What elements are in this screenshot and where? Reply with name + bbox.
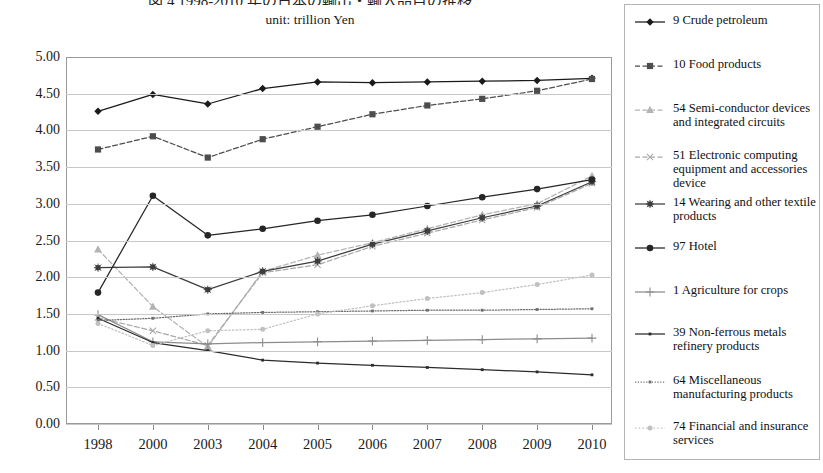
- x-tick-label: 2007: [413, 436, 442, 453]
- gridline: [66, 130, 612, 131]
- legend-item[interactable]: 97 Hotel: [631, 239, 817, 255]
- legend-item[interactable]: 39 Non-ferrous metals refinery products: [631, 325, 817, 353]
- series-line: [95, 180, 595, 348]
- series-line: [96, 272, 595, 347]
- gridline: [66, 277, 612, 278]
- legend-item[interactable]: 74 Financial and insurance services: [631, 419, 817, 447]
- chart-legend: 9 Crude petroleum10 Food products54 Semi…: [624, 4, 820, 460]
- legend-item-label: 54 Semi-conductor devices and integrated…: [671, 101, 817, 129]
- x-tick-label: 2009: [523, 436, 552, 453]
- gridline: [66, 314, 612, 315]
- y-tick-label: 0.00: [0, 416, 60, 432]
- gridline: [66, 204, 612, 205]
- legend-key-icon: [631, 375, 671, 389]
- legend-item-label: 10 Food products: [671, 57, 761, 71]
- x-tick-label: 2006: [358, 436, 387, 453]
- x-tick: [592, 425, 593, 430]
- series-line: [94, 310, 597, 348]
- legend-item-label: 9 Crude petroleum: [671, 13, 767, 27]
- legend-item-label: 39 Non-ferrous metals refinery products: [671, 325, 817, 353]
- gridline: [66, 94, 612, 95]
- chart-page: 図 4 1998-2010 年の日本の輸出・輸入品目の推移 unit: tril…: [0, 0, 823, 473]
- y-tick-label: 3.50: [0, 159, 60, 175]
- series-line: [94, 172, 596, 350]
- series-line: [97, 317, 594, 376]
- series-line: [95, 76, 595, 161]
- y-tick-label: 1.50: [0, 306, 60, 322]
- gridline: [66, 241, 612, 242]
- legend-key-icon: [631, 59, 671, 73]
- legend-item[interactable]: 10 Food products: [631, 57, 817, 73]
- x-tick-label: 1998: [84, 436, 113, 453]
- legend-item[interactable]: 14 Wearing and other textile products: [631, 195, 817, 223]
- y-tick-label: 4.00: [0, 122, 60, 138]
- legend-item[interactable]: 54 Semi-conductor devices and integrated…: [631, 101, 817, 129]
- x-tick: [153, 425, 154, 430]
- x-tick-label: 2010: [578, 436, 607, 453]
- legend-key-icon: [631, 197, 671, 211]
- legend-item-label: 74 Financial and insurance services: [671, 419, 817, 447]
- chart-subtitle: unit: trillion Yen: [0, 12, 620, 28]
- y-tick-label: 2.50: [0, 233, 60, 249]
- legend-key-icon: [631, 421, 671, 435]
- y-tick-label: 2.00: [0, 269, 60, 285]
- x-tick: [318, 425, 319, 430]
- x-tick: [482, 425, 483, 430]
- legend-item-label: 1 Agriculture for crops: [671, 283, 788, 297]
- gridline: [66, 424, 612, 425]
- x-tick: [537, 425, 538, 430]
- x-tick-label: 2005: [303, 436, 332, 453]
- x-axis: 1998200020032004200520062007200820092010: [66, 430, 612, 460]
- plot-area: [66, 57, 612, 424]
- y-tick-label: 0.50: [0, 379, 60, 395]
- gridline: [66, 387, 612, 388]
- legend-item-label: 14 Wearing and other textile products: [671, 195, 817, 223]
- y-tick-label: 1.00: [0, 343, 60, 359]
- y-tick-label: 4.50: [0, 86, 60, 102]
- legend-item[interactable]: 64 Miscellaneous manufacturing products: [631, 373, 817, 401]
- legend-key-icon: [631, 150, 671, 164]
- legend-key-icon: [631, 241, 671, 255]
- y-axis: 5.004.504.003.503.002.502.001.501.000.50…: [0, 57, 60, 424]
- x-tick: [427, 425, 428, 430]
- legend-item[interactable]: 51 Electronic computing equipment and ac…: [631, 148, 817, 191]
- chart-title: 図 4 1998-2010 年の日本の輸出・輸入品目の推移: [0, 0, 620, 5]
- legend-item-label: 51 Electronic computing equipment and ac…: [671, 148, 817, 191]
- y-tick-label: 3.00: [0, 196, 60, 212]
- legend-item-label: 97 Hotel: [671, 239, 717, 253]
- legend-key-icon: [631, 15, 671, 29]
- legend-key-icon: [631, 103, 671, 117]
- x-tick: [263, 425, 264, 430]
- legend-item[interactable]: 1 Agriculture for crops: [631, 283, 817, 299]
- y-tick-label: 5.00: [0, 49, 60, 65]
- gridline: [66, 167, 612, 168]
- gridline: [66, 351, 612, 352]
- x-tick-label: 2004: [248, 436, 277, 453]
- x-tick: [98, 425, 99, 430]
- x-tick-label: 2000: [138, 436, 167, 453]
- legend-key-icon: [631, 285, 671, 299]
- legend-key-icon: [631, 327, 671, 341]
- legend-item[interactable]: 9 Crude petroleum: [631, 13, 817, 29]
- x-tick: [372, 425, 373, 430]
- x-tick-label: 2003: [193, 436, 222, 453]
- x-tick: [208, 425, 209, 430]
- x-tick-label: 2008: [468, 436, 497, 453]
- legend-item-label: 64 Miscellaneous manufacturing products: [671, 373, 817, 401]
